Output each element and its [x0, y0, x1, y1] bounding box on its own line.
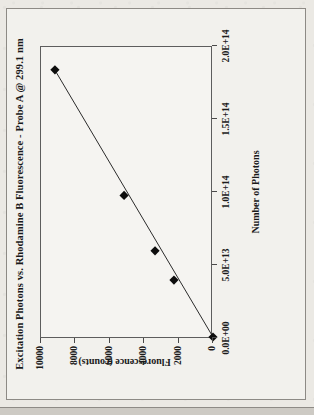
y-axis-tick-label: 4000 [138, 346, 148, 394]
y-axis-title: Fluorescence (counts) [39, 357, 211, 368]
chart: Excitation Photons vs. Rhodamine B Fluor… [10, 12, 302, 396]
x-axis-tick-label: 0.0E+00 [221, 321, 231, 354]
x-axis-tick [212, 45, 217, 46]
trendline [55, 70, 213, 337]
data-point-marker [50, 65, 59, 74]
y-axis-tick-label: 10000 [35, 346, 45, 394]
figure-border: Excitation Photons vs. Rhodamine B Fluor… [6, 8, 306, 400]
x-axis-tick-label: 2.0E+14 [221, 29, 231, 62]
x-axis-tick [212, 264, 217, 265]
y-axis-tick [109, 338, 110, 343]
y-axis-tick [40, 338, 41, 343]
data-point-marker [150, 246, 159, 255]
y-axis-tick-label: 2000 [173, 346, 183, 394]
scan-bottom-edge [0, 407, 314, 415]
y-axis-tick [143, 338, 144, 343]
y-axis-tick [178, 338, 179, 343]
plot-svg [41, 45, 213, 337]
rotated-chart-wrapper: Excitation Photons vs. Rhodamine B Fluor… [10, 12, 302, 396]
x-axis-tick-label: 5.0E+13 [221, 248, 231, 281]
x-axis-tick-label: 1.0E+14 [221, 175, 231, 208]
y-axis-tick [212, 338, 213, 343]
y-axis-tick-label: 8000 [69, 346, 79, 394]
x-axis-title: Number of Photons [250, 46, 261, 338]
y-axis-tick [74, 338, 75, 343]
x-axis-tick [212, 118, 217, 119]
y-axis-tick-label: 6000 [104, 346, 114, 394]
chart-title: Excitation Photons vs. Rhodamine B Fluor… [14, 12, 25, 396]
scanned-page: Excitation Photons vs. Rhodamine B Fluor… [0, 0, 314, 415]
trendline-segment [55, 70, 213, 337]
y-axis-tick-label: 0 [207, 346, 217, 394]
x-axis-tick [212, 191, 217, 192]
plot-area [40, 46, 212, 338]
x-axis-tick-label: 1.5E+14 [221, 102, 231, 135]
